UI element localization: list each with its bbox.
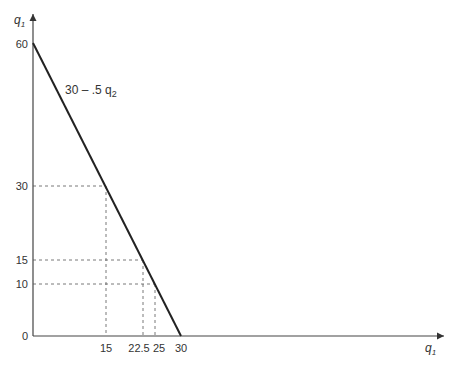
y-axis-label: q1	[14, 13, 25, 29]
ytick-15: 15	[16, 254, 28, 266]
line-annotation: 30 – .5 q2	[65, 83, 117, 99]
ytick-10: 10	[16, 278, 28, 290]
x-axis-label: q1	[425, 341, 436, 357]
ytick-0: 0	[22, 330, 28, 342]
xtick-25: 25	[153, 342, 165, 354]
xtick-22-5: 22.5	[128, 342, 149, 354]
xtick-30: 30	[175, 342, 187, 354]
guide-lines	[33, 186, 155, 336]
xtick-15: 15	[100, 342, 112, 354]
ytick-30: 30	[16, 180, 28, 192]
ytick-60: 60	[16, 38, 28, 50]
chart: 30 – .5 q2 q1 q1 60 30 15 10 0 15 22.5 2…	[0, 0, 453, 365]
